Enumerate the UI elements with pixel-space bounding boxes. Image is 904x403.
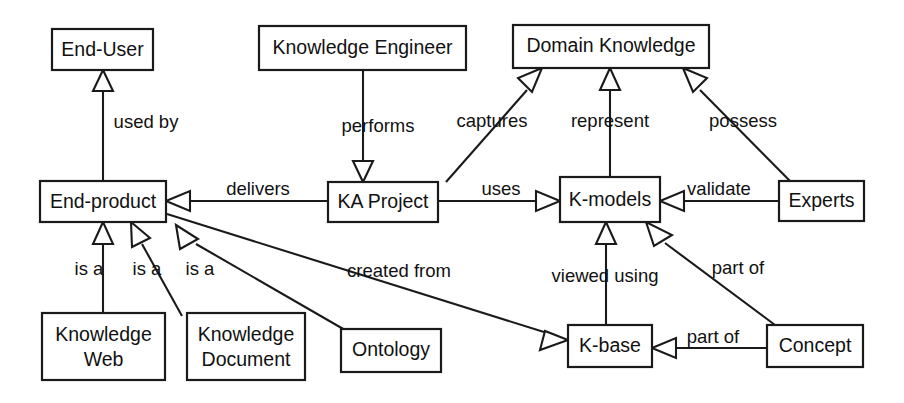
node-k-base[interactable]: K-base bbox=[568, 325, 652, 367]
edge-label-represent: represent bbox=[571, 110, 649, 131]
arrow-head-possess bbox=[683, 68, 707, 92]
edge-label-is-a-web: is a bbox=[75, 258, 105, 279]
node-experts[interactable]: Experts bbox=[779, 181, 864, 221]
edge-line-is-a-knowledge-document bbox=[142, 244, 182, 316]
node-label-knowledge-web-line1: Knowledge bbox=[55, 323, 152, 345]
edge-label-uses: uses bbox=[481, 178, 520, 199]
arrow-head-created-from bbox=[540, 331, 568, 350]
edge-used-by bbox=[93, 70, 113, 181]
concept-map-diagram: End-User Knowledge Engineer Domain Knowl… bbox=[0, 0, 904, 403]
edge-label-captures: captures bbox=[457, 110, 528, 131]
node-label-experts: Experts bbox=[788, 189, 854, 211]
node-concept[interactable]: Concept bbox=[767, 325, 863, 367]
node-layer: End-User Knowledge Engineer Domain Knowl… bbox=[40, 25, 864, 380]
arrow-head-used-by bbox=[93, 70, 113, 91]
node-label-domain-knowledge: Domain Knowledge bbox=[526, 34, 695, 56]
arrow-head-is-a-ontology bbox=[176, 225, 198, 249]
node-ontology[interactable]: Ontology bbox=[341, 329, 441, 372]
node-knowledge-web[interactable]: Knowledge Web bbox=[42, 313, 165, 380]
edge-line-possess bbox=[700, 90, 790, 181]
node-label-end-product: End-product bbox=[50, 190, 157, 212]
arrow-head-is-a-knowledge-web bbox=[93, 222, 113, 244]
node-knowledge-engineer[interactable]: Knowledge Engineer bbox=[259, 26, 466, 70]
arrow-head-part-of-k-models bbox=[646, 222, 672, 246]
node-label-k-base: K-base bbox=[579, 334, 641, 356]
edge-label-is-a-ontology: is a bbox=[186, 258, 216, 279]
edge-label-used-by: used by bbox=[114, 111, 180, 132]
edge-label-possess: possess bbox=[709, 110, 777, 131]
arrow-head-part-of-k-base bbox=[652, 338, 676, 358]
edge-label-part-of-base: part of bbox=[687, 326, 740, 347]
node-label-end-user: End-User bbox=[61, 38, 144, 60]
edge-label-part-of-diagonal: part of bbox=[712, 257, 765, 278]
arrow-head-is-a-knowledge-document bbox=[131, 222, 150, 247]
edge-label-validate: validate bbox=[687, 178, 751, 199]
edge-label-viewed-using: viewed using bbox=[552, 265, 659, 286]
node-domain-knowledge[interactable]: Domain Knowledge bbox=[513, 25, 709, 68]
node-label-knowledge-document-line2: Document bbox=[202, 348, 291, 370]
node-end-user[interactable]: End-User bbox=[52, 29, 153, 70]
arrow-head-performs bbox=[353, 161, 373, 182]
node-k-models[interactable]: K-models bbox=[560, 177, 660, 222]
arrow-head-represent bbox=[600, 68, 620, 90]
node-label-knowledge-web-line2: Web bbox=[84, 348, 124, 370]
node-end-product[interactable]: End-product bbox=[40, 181, 166, 222]
node-label-knowledge-document-line1: Knowledge bbox=[198, 323, 295, 345]
diagram-canvas: End-User Knowledge Engineer Domain Knowl… bbox=[0, 0, 904, 403]
node-label-knowledge-engineer: Knowledge Engineer bbox=[273, 36, 453, 58]
edge-label-is-a-document: is a bbox=[133, 258, 163, 279]
arrow-head-captures bbox=[518, 68, 542, 92]
arrow-head-validate bbox=[660, 191, 684, 211]
edge-line-captures bbox=[446, 90, 527, 182]
edge-label-delivers: delivers bbox=[226, 178, 290, 199]
arrow-head-viewed-using bbox=[596, 222, 616, 244]
node-label-k-models: K-models bbox=[569, 188, 652, 210]
node-ka-project[interactable]: KA Project bbox=[328, 182, 438, 222]
edge-label-created-from: created from bbox=[347, 260, 451, 281]
node-label-concept: Concept bbox=[779, 334, 852, 356]
arrow-head-delivers bbox=[166, 191, 190, 211]
edge-line-part-of-k-models bbox=[665, 243, 775, 325]
node-label-ontology: Ontology bbox=[352, 338, 430, 360]
node-label-ka-project: KA Project bbox=[337, 190, 429, 212]
edge-label-performs: performs bbox=[342, 115, 415, 136]
node-knowledge-document[interactable]: Knowledge Document bbox=[187, 313, 305, 380]
arrow-head-uses bbox=[536, 191, 560, 211]
